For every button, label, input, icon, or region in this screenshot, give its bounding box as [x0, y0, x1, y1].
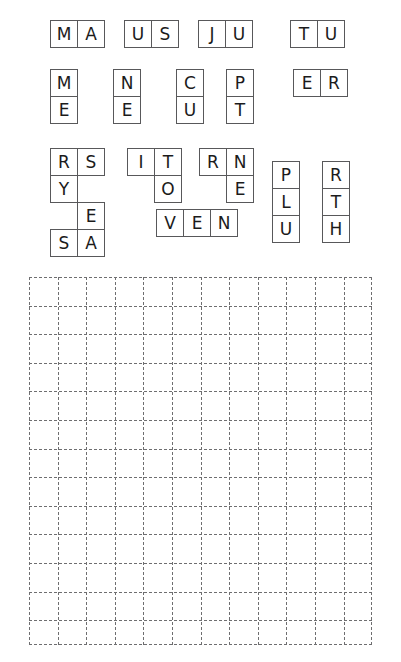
grid-line-horizontal [29, 391, 372, 392]
grid-line-vertical [229, 277, 230, 645]
letter-tile[interactable]: R [199, 148, 227, 176]
letter-tile[interactable]: U [124, 20, 152, 48]
letter-tile[interactable]: U [317, 20, 345, 48]
letter-tile[interactable]: L [272, 188, 300, 216]
letter-tile[interactable]: V [156, 209, 184, 237]
grid-line-vertical [315, 277, 316, 645]
answer-grid[interactable] [29, 277, 372, 645]
grid-line-horizontal [29, 620, 372, 621]
grid-line-vertical [258, 277, 259, 645]
grid-line-vertical [86, 277, 87, 645]
letter-tile[interactable]: P [226, 69, 254, 97]
grid-line-horizontal [29, 334, 372, 335]
letter-tile[interactable]: E [183, 209, 211, 237]
letter-tile[interactable]: N [210, 209, 238, 237]
letter-tile[interactable]: E [113, 96, 141, 124]
letter-tile[interactable]: C [176, 69, 204, 97]
letter-tile[interactable]: E [77, 202, 105, 230]
grid-line-horizontal [29, 563, 372, 564]
letter-tile[interactable]: P [272, 161, 300, 189]
letter-tile[interactable]: J [198, 20, 226, 48]
letter-tile[interactable]: E [50, 96, 78, 124]
letter-tile[interactable]: N [226, 148, 254, 176]
grid-line-horizontal [29, 277, 372, 278]
letter-tile[interactable]: R [322, 161, 350, 189]
letter-tile[interactable]: A [77, 20, 105, 48]
grid-line-horizontal [29, 477, 372, 478]
letter-tile[interactable]: E [293, 69, 321, 97]
letter-tile[interactable]: U [225, 20, 253, 48]
grid-line-vertical [115, 277, 116, 645]
grid-line-vertical [58, 277, 59, 645]
letter-tile[interactable]: N [113, 69, 141, 97]
letter-tile[interactable]: H [322, 215, 350, 243]
grid-line-vertical [172, 277, 173, 645]
grid-line-vertical [344, 277, 345, 645]
grid-line-horizontal [29, 506, 372, 507]
letter-tile[interactable]: R [50, 148, 78, 176]
letter-tile[interactable]: M [50, 20, 78, 48]
letter-tile[interactable]: T [322, 188, 350, 216]
puzzle-canvas: MAUSJUTUMENECUPTERRSYESAITORNEVENPLURTH [0, 0, 401, 662]
grid-line-vertical [201, 277, 202, 645]
grid-line-vertical [143, 277, 144, 645]
letter-tile[interactable]: U [272, 215, 300, 243]
letter-tile[interactable]: S [77, 148, 105, 176]
letter-tile[interactable]: O [154, 175, 182, 203]
grid-line-horizontal [29, 363, 372, 364]
letter-tile[interactable]: I [127, 148, 155, 176]
letter-tile[interactable]: T [154, 148, 182, 176]
letter-tile[interactable]: U [176, 96, 204, 124]
grid-line-horizontal [29, 592, 372, 593]
letter-tile[interactable]: S [151, 20, 179, 48]
letter-tile[interactable]: T [226, 96, 254, 124]
grid-line-vertical [371, 277, 372, 645]
letter-tile[interactable]: M [50, 69, 78, 97]
grid-line-vertical [286, 277, 287, 645]
grid-line-horizontal [29, 534, 372, 535]
grid-line-vertical [29, 277, 30, 645]
letter-tile[interactable]: R [320, 69, 348, 97]
grid-line-horizontal [29, 644, 372, 645]
letter-tile[interactable]: T [290, 20, 318, 48]
letter-tile[interactable]: A [77, 229, 105, 257]
letter-tile[interactable]: E [226, 175, 254, 203]
grid-line-horizontal [29, 449, 372, 450]
grid-line-horizontal [29, 306, 372, 307]
letter-tile[interactable]: Y [50, 175, 78, 203]
grid-line-horizontal [29, 420, 372, 421]
letter-tile[interactable]: S [50, 229, 78, 257]
